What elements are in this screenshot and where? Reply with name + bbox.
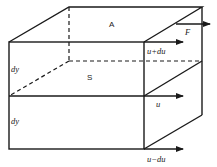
top-plate-face <box>9 7 202 42</box>
velocity-mid-label: u <box>156 99 160 109</box>
interface-surface-label: S <box>87 73 92 82</box>
right-bottom-edge <box>144 115 202 149</box>
velocity-bottom-label: u−du <box>147 154 166 164</box>
right-middle-edge <box>144 61 202 96</box>
force-label: F <box>184 27 191 37</box>
hidden-edges <box>9 7 202 96</box>
velocity-top-label: u+du <box>147 46 166 56</box>
right-face <box>144 7 202 149</box>
front-face <box>9 42 144 149</box>
area-label: A <box>109 20 115 29</box>
lower-layer-thickness-label: dy <box>11 116 19 126</box>
shear-flow-diagram: A F u+du u u−du dy dy S <box>0 0 217 167</box>
upper-layer-thickness-label: dy <box>11 64 19 74</box>
